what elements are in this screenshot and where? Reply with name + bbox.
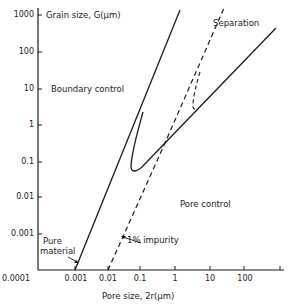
x-tick-label: 0.1 xyxy=(134,275,147,283)
y-tick-label: 1 xyxy=(0,121,34,129)
separation-dashed-hook xyxy=(193,72,200,109)
y-axis-title: Grain size, G(μm) xyxy=(46,11,121,20)
pure-material-line xyxy=(75,10,180,270)
y-tick-label: 10 xyxy=(0,85,34,93)
pure-material-label-2: material xyxy=(40,247,75,256)
y-tick-label: 1000 xyxy=(0,11,34,19)
y-tick-label: 0.01 xyxy=(0,193,34,201)
chart-plot xyxy=(0,0,292,307)
y-tick-label: 0.1 xyxy=(0,158,34,166)
y-tick-label: 100 xyxy=(0,48,34,56)
pore-control-label: Pore control xyxy=(180,200,231,209)
x-tick-label: 10 xyxy=(205,275,215,283)
x-tick-label: 0.01 xyxy=(99,275,117,283)
pore-control-curve xyxy=(131,28,276,171)
pure-material-label-1: Pure xyxy=(43,237,62,246)
separation-label: Separation xyxy=(213,19,259,28)
boundary-control-label: Boundary control xyxy=(51,85,124,94)
y-tick-label: 0.001 xyxy=(0,230,34,238)
origin-tick-label: 0.0001 xyxy=(2,275,30,283)
x-axis-title: Pore size, 2r(μm) xyxy=(102,292,174,301)
x-tick-label: 1 xyxy=(172,275,177,283)
impurity-label: 1% impurity xyxy=(127,236,179,245)
x-tick-label: 100 xyxy=(237,275,252,283)
impurity-dashed-line xyxy=(108,8,224,270)
x-tick-label: 0.001 xyxy=(65,275,88,283)
